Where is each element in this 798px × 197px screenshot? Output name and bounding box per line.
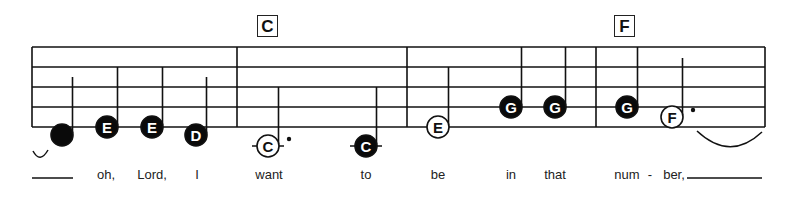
lyric-syllable: Lord, — [137, 167, 167, 182]
tie-arc — [697, 131, 762, 147]
note-head — [51, 124, 73, 146]
note-letter: E — [147, 119, 157, 136]
lyric-syllable: in — [506, 167, 516, 182]
chord-symbol-f: F — [614, 15, 635, 37]
note-letter: E — [433, 119, 443, 136]
augmentation-dot — [691, 108, 695, 112]
lyric-syllable: that — [544, 167, 566, 182]
tie-arc — [33, 150, 48, 157]
note-letter: G — [621, 99, 633, 116]
note-letter: G — [549, 99, 561, 116]
note-letter: F — [667, 109, 676, 126]
note-letter: G — [505, 99, 517, 116]
lyric-syllable: num — [614, 167, 639, 182]
lyric-syllable: want — [255, 167, 282, 182]
note-letter: C — [361, 138, 372, 155]
chord-symbol-c: C — [257, 15, 278, 37]
lyric-syllable: to — [361, 167, 372, 182]
note-letter: E — [102, 119, 112, 136]
sheet-music: EEDCCEGGGF CF oh,Lord,Iwanttobeinthatnum… — [0, 0, 798, 197]
lyric-syllable: ber, — [663, 167, 685, 182]
note-letter: D — [191, 127, 202, 144]
lyric-syllable: - — [648, 167, 652, 182]
lyric-syllable: oh, — [97, 167, 115, 182]
lyric-syllable: be — [431, 167, 445, 182]
note-letter: C — [263, 138, 274, 155]
lyric-syllable: I — [195, 167, 199, 182]
augmentation-dot — [287, 137, 291, 141]
